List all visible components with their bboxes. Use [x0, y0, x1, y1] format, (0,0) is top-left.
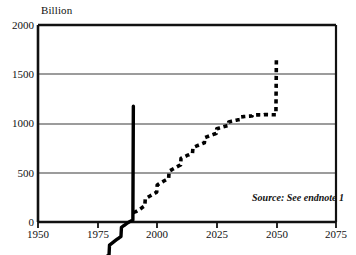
x-tick-label-2050: 2050 [254, 228, 300, 240]
grid-lines [38, 74, 336, 173]
source-note: Source: See endnote 1 [252, 192, 344, 203]
y-tick-label-1500: 1500 [0, 68, 34, 80]
x-tick-label-1950: 1950 [15, 228, 61, 240]
series-line-projected [133, 58, 276, 213]
plot-area [0, 0, 356, 255]
y-tick-label-1000: 1000 [0, 117, 34, 129]
chart-figure: Billion 2000 1500 1000 500 0 1950 1975 2… [0, 0, 356, 255]
x-tick-label-1975: 1975 [75, 228, 121, 240]
y-tick-label-500: 500 [0, 167, 34, 179]
x-tick-label-2025: 2025 [194, 228, 240, 240]
x-tick-label-2000: 2000 [134, 228, 180, 240]
x-tick-label-2075: 2075 [313, 228, 356, 240]
y-tick-label-2000: 2000 [0, 19, 34, 31]
y-tick-label-0: 0 [0, 216, 34, 228]
y-axis-title: Billion [41, 4, 72, 16]
